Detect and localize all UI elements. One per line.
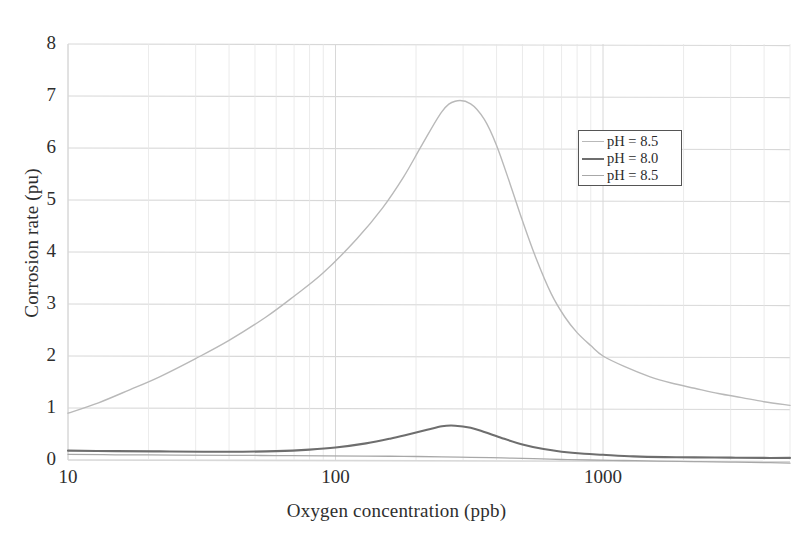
legend-swatch-2 [582, 175, 604, 176]
x-tick-label-10: 10 [28, 466, 108, 488]
legend[interactable]: pH = 8.5 pH = 8.0 pH = 8.5 [578, 130, 682, 186]
x-axis-title: Oxygen concentration (ppb) [0, 500, 793, 522]
x-tick-label-1000: 1000 [563, 466, 643, 488]
y-tick-label-1: 1 [16, 396, 56, 418]
chart-figure: Corrosion rate (pu) Oxygen concentration… [0, 0, 793, 544]
y-tick-label-2: 2 [16, 344, 56, 366]
legend-label-2: pH = 8.5 [607, 167, 658, 184]
legend-label-1: pH = 8.0 [607, 150, 658, 167]
y-tick-label-5: 5 [16, 188, 56, 210]
plot-area [0, 0, 793, 544]
y-tick-label-3: 3 [16, 292, 56, 314]
legend-label-0: pH = 8.5 [607, 133, 658, 150]
x-tick-label-100: 100 [296, 466, 376, 488]
y-tick-label-6: 6 [16, 136, 56, 158]
series-line-2 [68, 454, 790, 463]
legend-item: pH = 8.5 [582, 133, 678, 150]
y-tick-label-8: 8 [16, 32, 56, 54]
y-tick-label-7: 7 [16, 84, 56, 106]
legend-swatch-0 [582, 141, 604, 142]
y-tick-label-4: 4 [16, 240, 56, 262]
legend-item: pH = 8.0 [582, 150, 678, 167]
legend-item: pH = 8.5 [582, 167, 678, 184]
legend-swatch-1 [582, 158, 604, 160]
gridlines-horizontal [68, 44, 790, 462]
series-line-1 [68, 426, 790, 458]
